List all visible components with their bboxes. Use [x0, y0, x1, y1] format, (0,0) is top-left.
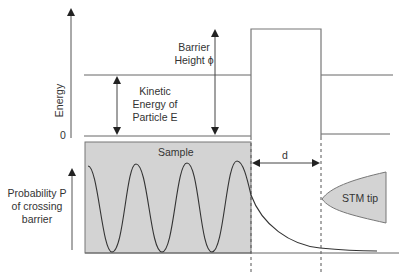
barrier-height-label: Barrier Height ϕ: [164, 41, 224, 67]
probability-label-line3: barrier: [2, 213, 72, 226]
distance-label: d: [282, 149, 288, 162]
barrier-label-line1: Barrier: [164, 41, 224, 54]
barrier-label-line2: Height ϕ: [164, 54, 224, 67]
probability-label-line1: Probability P: [2, 187, 72, 200]
kinetic-energy-label: Kinetic Energy of Particle E: [122, 85, 188, 124]
kinetic-label-line2: Energy of: [122, 98, 188, 111]
probability-label-line2: of crossing: [2, 200, 72, 213]
tunneling-diagram: Energy 0 Barrier Height ϕ Kinetic Energy…: [0, 0, 409, 277]
energy-axis-label: Energy: [53, 81, 66, 121]
kinetic-label-line3: Particle E: [122, 111, 188, 124]
potential-barrier: [251, 29, 321, 137]
zero-label: 0: [60, 129, 66, 142]
sample-label: Sample: [158, 146, 194, 159]
probability-axis-label: Probability P of crossing barrier: [2, 187, 72, 226]
zero-energy-line: [84, 134, 390, 136]
kinetic-label-line1: Kinetic: [122, 85, 188, 98]
stm-tip-label: STM tip: [342, 192, 378, 205]
